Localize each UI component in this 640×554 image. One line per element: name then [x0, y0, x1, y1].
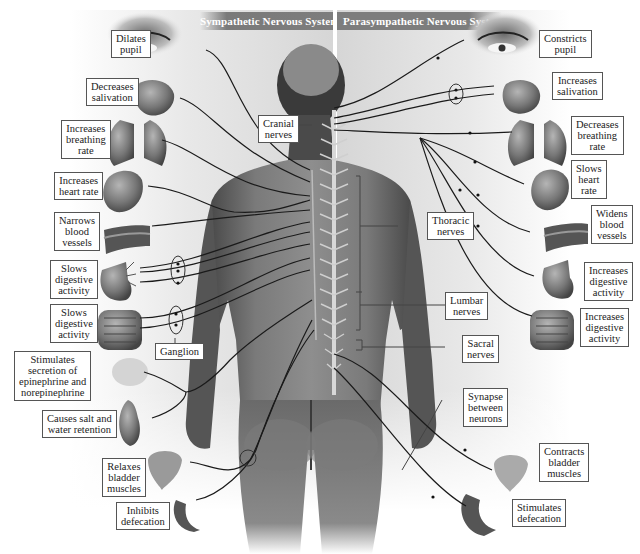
bladder-right-icon [494, 455, 528, 492]
vessel-left-icon [104, 225, 150, 254]
parasympathetic-dots [431, 56, 479, 498]
heart-left-icon [103, 171, 143, 212]
label-synapse-between-neurons: Synapse between neurons [463, 388, 508, 427]
label-stimulates-defecation: Stimulates defecation [512, 499, 566, 527]
label-slows-digestive-activity-stomach: Slows digestive activity [50, 260, 98, 299]
stomach-right-icon [542, 260, 573, 299]
kidney-left-icon [119, 400, 140, 446]
label-increases-heart-rate: Increases heart rate [54, 172, 103, 200]
label-narrows-blood-vessels: Narrows blood vessels [54, 212, 100, 251]
lungs-right-icon [508, 120, 534, 166]
label-ganglion: Ganglion [155, 343, 204, 360]
bladder-left-icon [148, 451, 182, 490]
label-inhibits-defecation: Inhibits defecation [116, 502, 170, 530]
label-constricts-pupil: Constricts pupil [539, 30, 592, 58]
stomach-left-icon [100, 262, 131, 301]
label-stimulates-secretion: Stimulates secretion of epinephrine and … [14, 351, 91, 401]
label-cranial-nerves: Cranial nerves [258, 115, 299, 143]
intestine-left-icon [98, 310, 142, 350]
label-increases-digestive-activity-stomach: Increases digestive activity [584, 262, 633, 301]
label-decreases-salivation: Decreases salivation [86, 78, 139, 106]
label-sacral-nerves: Sacral nerves [462, 335, 499, 363]
vessel-right-icon [544, 223, 588, 252]
salivary-left-icon [135, 80, 174, 116]
label-widens-blood-vessels: Widens blood vessels [591, 205, 633, 244]
label-relaxes-bladder-muscles: Relaxes bladder muscles [102, 458, 146, 497]
label-slows-heart-rate: Slows heart rate [571, 160, 607, 199]
lungs-left-icon [108, 120, 134, 166]
adrenal-left-icon [112, 358, 148, 386]
label-lumbar-nerves: Lumbar nerves [445, 292, 488, 320]
salivary-right-icon [503, 80, 541, 114]
label-thoracic-nerves: Thoracic nerves [427, 212, 474, 240]
nervous-system-diagram: Sympathetic Nervous System Parasympathet… [0, 0, 640, 554]
intestine-right-icon [530, 310, 574, 350]
label-increases-digestive-activity-intestine: Increases digestive activity [580, 308, 629, 347]
heart-right-icon [531, 170, 569, 211]
label-causes-salt-water-retention: Causes salt and water retention [42, 410, 117, 438]
label-increases-salivation: Increases salivation [552, 72, 603, 100]
label-decreases-breathing-rate: Decreases breathing rate [571, 116, 624, 155]
label-contracts-bladder-muscles: Contracts bladder muscles [539, 443, 589, 482]
label-increases-breathing-rate: Increases breathing rate [61, 120, 111, 159]
label-slows-digestive-activity-intestine: Slows digestive activity [50, 304, 98, 343]
label-dilates-pupil: Dilates pupil [111, 30, 151, 58]
